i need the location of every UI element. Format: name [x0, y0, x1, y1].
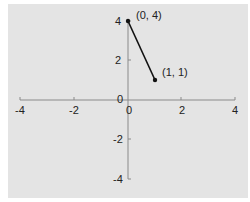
- y-tick-label: 2: [115, 55, 121, 66]
- x-tick-label: 0: [126, 105, 132, 116]
- x-tick-label: 2: [179, 105, 185, 116]
- y-tick-label: -4: [113, 174, 123, 185]
- data-segment: [128, 21, 155, 80]
- x-tick-label: -2: [69, 105, 79, 116]
- point-label-1-1: (1, 1): [162, 67, 188, 78]
- y-tick-label: 4: [115, 16, 121, 27]
- data-point-1-1: [153, 78, 157, 82]
- y-tick-label: 0: [117, 94, 123, 105]
- data-point-0-4: [126, 19, 130, 23]
- chart-canvas: [0, 0, 250, 202]
- point-label-0-4: (0, 4): [136, 10, 162, 21]
- y-tick-label: -2: [113, 134, 123, 145]
- x-tick-label: -4: [15, 105, 25, 116]
- x-tick-label: 4: [232, 105, 238, 116]
